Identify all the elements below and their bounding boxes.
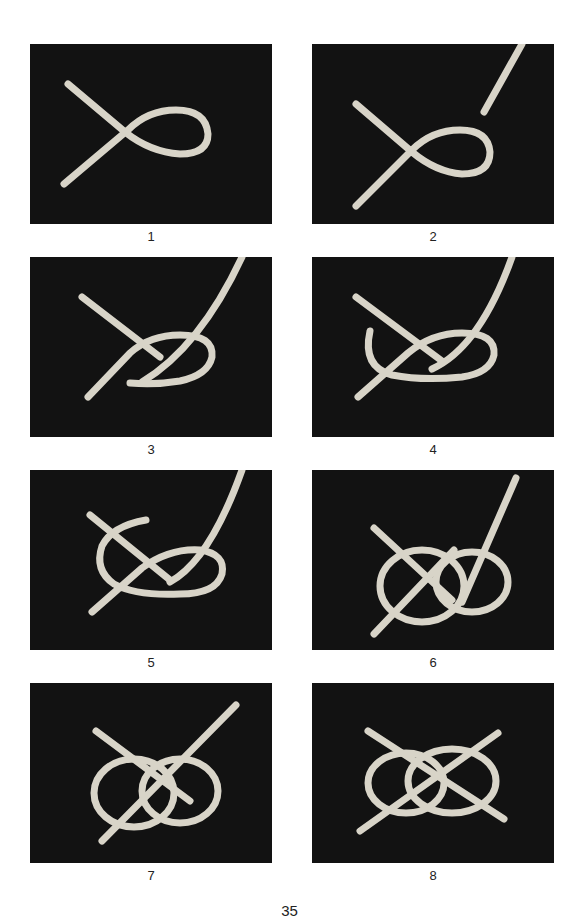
- rope-illustration-6: [312, 470, 554, 650]
- rope-illustration-2: [312, 44, 554, 224]
- step-5-photo: [30, 470, 272, 650]
- step-7-label: 7: [30, 868, 272, 883]
- step-2-label: 2: [312, 229, 554, 244]
- rope-illustration-1: [30, 44, 272, 224]
- rope-illustration-5: [30, 470, 272, 650]
- step-5-label: 5: [30, 655, 272, 670]
- step-2-photo: [312, 44, 554, 224]
- rope-illustration-4: [312, 257, 554, 437]
- step-4-photo: [312, 257, 554, 437]
- step-6-label: 6: [312, 655, 554, 670]
- step-8-label: 8: [312, 868, 554, 883]
- rope-illustration-8: [312, 683, 554, 863]
- step-7-photo: [30, 683, 272, 863]
- step-1-photo: [30, 44, 272, 224]
- step-3-label: 3: [30, 442, 272, 457]
- step-4-label: 4: [312, 442, 554, 457]
- rope-illustration-7: [30, 683, 272, 863]
- step-8-photo: [312, 683, 554, 863]
- step-1-label: 1: [30, 229, 272, 244]
- page-number: 35: [0, 902, 579, 919]
- rope-illustration-3: [30, 257, 272, 437]
- step-6-photo: [312, 470, 554, 650]
- step-3-photo: [30, 257, 272, 437]
